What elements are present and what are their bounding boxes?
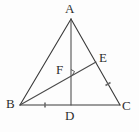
- segment-AB: [20, 19, 71, 105]
- geometry-figure: A B C D E F: [0, 0, 139, 132]
- vertex-label-C: C: [122, 99, 131, 112]
- vertex-label-A: A: [65, 2, 74, 15]
- vertex-label-E: E: [99, 51, 107, 64]
- vertex-label-B: B: [6, 97, 15, 110]
- vertex-label-D: D: [65, 109, 74, 122]
- vertex-label-F: F: [56, 63, 63, 76]
